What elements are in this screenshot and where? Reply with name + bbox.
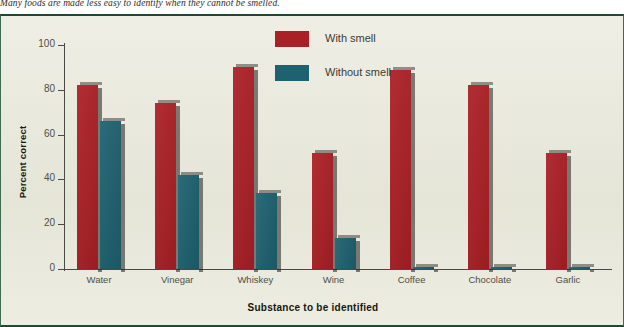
bar-face bbox=[335, 238, 356, 269]
figure-caption: Many foods are made less easy to identif… bbox=[0, 0, 470, 11]
bar-face bbox=[491, 267, 512, 269]
bar-chocolate-without-smell bbox=[491, 267, 512, 269]
x-category-label: Whiskey bbox=[213, 274, 297, 285]
bar-shadow-side bbox=[199, 178, 203, 272]
legend-item-without-smell: Without smell bbox=[275, 65, 485, 87]
y-tick-mark bbox=[58, 135, 64, 136]
legend-swatch-without-smell bbox=[275, 65, 309, 81]
bar-water-without-smell bbox=[100, 121, 121, 269]
bar-face bbox=[569, 267, 590, 269]
x-category-label: Coffee bbox=[370, 274, 454, 285]
y-tick-mark bbox=[58, 179, 64, 180]
bar-face bbox=[178, 175, 199, 269]
bar-shadow-side bbox=[411, 73, 415, 272]
bar-face bbox=[100, 121, 121, 269]
bar-face bbox=[256, 193, 277, 269]
bar-face bbox=[155, 103, 176, 269]
chart-legend: With smell Without smell bbox=[275, 31, 485, 99]
x-category-label: Vinegar bbox=[135, 274, 219, 285]
bar-face bbox=[390, 70, 411, 269]
y-tick-label: 100 bbox=[38, 38, 55, 49]
bar-vinegar-without-smell bbox=[178, 175, 199, 269]
legend-item-with-smell: With smell bbox=[275, 31, 485, 53]
bar-garlic-with-smell bbox=[546, 153, 567, 269]
bar-shadow-side bbox=[356, 241, 360, 272]
bar-water-with-smell bbox=[77, 85, 98, 269]
y-tick-label: 80 bbox=[44, 83, 55, 94]
bar-chocolate-with-smell bbox=[468, 85, 489, 269]
bar-shadow-side bbox=[512, 270, 516, 272]
bar-face bbox=[312, 153, 333, 269]
legend-label-with-smell: With smell bbox=[325, 32, 376, 44]
y-axis-title: Percent correct bbox=[0, 155, 72, 169]
legend-label-without-smell: Without smell bbox=[325, 66, 391, 78]
bar-group bbox=[155, 45, 199, 269]
bar-whiskey-with-smell bbox=[233, 67, 254, 269]
y-tick-mark bbox=[58, 45, 64, 46]
y-tick-mark bbox=[58, 90, 64, 91]
bar-face bbox=[77, 85, 98, 269]
bar-group bbox=[77, 45, 121, 269]
bar-shadow-side bbox=[121, 124, 125, 272]
y-tick-mark bbox=[58, 269, 64, 270]
y-tick-label: 20 bbox=[44, 217, 55, 228]
bar-face bbox=[233, 67, 254, 269]
x-category-label: Water bbox=[57, 274, 141, 285]
x-category-label: Chocolate bbox=[448, 274, 532, 285]
bar-face bbox=[468, 85, 489, 269]
bar-group bbox=[546, 45, 590, 269]
bar-shadow-side bbox=[434, 270, 438, 272]
bar-coffee-without-smell bbox=[413, 267, 434, 269]
y-tick-mark bbox=[58, 224, 64, 225]
bar-whiskey-without-smell bbox=[256, 193, 277, 269]
bar-wine-with-smell bbox=[312, 153, 333, 269]
y-tick-label: 40 bbox=[44, 172, 55, 183]
bar-wine-without-smell bbox=[335, 238, 356, 269]
x-axis-line bbox=[64, 269, 612, 270]
bar-face bbox=[413, 267, 434, 269]
bar-shadow-side bbox=[489, 88, 493, 272]
y-tick-label: 0 bbox=[49, 262, 55, 273]
bar-shadow-side bbox=[590, 270, 594, 272]
bar-group bbox=[233, 45, 277, 269]
bar-coffee-with-smell bbox=[390, 70, 411, 269]
bar-face bbox=[546, 153, 567, 269]
bar-garlic-without-smell bbox=[569, 267, 590, 269]
bar-shadow-side bbox=[277, 196, 281, 272]
figure-page: Many foods are made less easy to identif… bbox=[0, 0, 624, 327]
x-category-label: Garlic bbox=[526, 274, 610, 285]
bar-shadow-side bbox=[567, 156, 571, 272]
y-tick-label: 60 bbox=[44, 128, 55, 139]
chart-panel: Percent correct 020406080100 WaterVinega… bbox=[0, 14, 624, 327]
legend-swatch-with-smell bbox=[275, 31, 309, 47]
bar-vinegar-with-smell bbox=[155, 103, 176, 269]
x-axis-title: Substance to be identified bbox=[1, 302, 624, 313]
x-category-label: Wine bbox=[292, 274, 376, 285]
